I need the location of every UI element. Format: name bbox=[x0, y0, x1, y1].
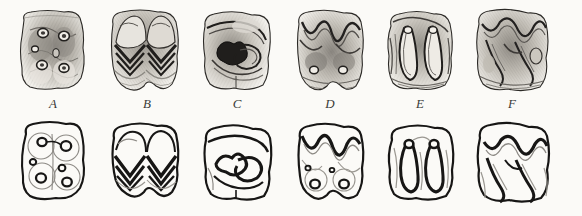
specimen-label-B: B bbox=[143, 96, 151, 111]
specimen-label-A: A bbox=[48, 96, 57, 111]
plate-canvas: A B C D E F bbox=[0, 0, 582, 216]
specimen-photo-C bbox=[200, 10, 276, 96]
specimen-label-C: C bbox=[233, 96, 242, 111]
specimen-label-D: D bbox=[324, 96, 335, 111]
figure-plate: A B C D E F bbox=[0, 0, 582, 216]
specimen-photo-F bbox=[472, 6, 552, 96]
specimen-photo-E bbox=[384, 10, 458, 96]
specimen-photo-B bbox=[108, 8, 184, 96]
specimen-label-F: F bbox=[507, 96, 517, 111]
specimen-photo-A bbox=[20, 10, 90, 92]
specimen-label-E: E bbox=[415, 96, 424, 111]
